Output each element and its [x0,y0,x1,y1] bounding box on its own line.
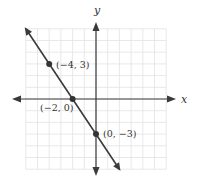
coordinate-plane: x y (−4, 3) (−2, 0) (0, −3) [0,0,197,184]
y-axis-label: y [93,4,101,17]
x-axis-label: x [181,93,188,106]
point-label-neg4-3: (−4, 3) [56,59,90,70]
point-label-0-neg3: (0, −3) [103,128,137,139]
data-point [93,131,99,137]
data-point [46,61,52,67]
y-axis-down-arrow-icon [93,167,100,176]
x-axis-left-arrow-icon [12,96,21,103]
x-axis-right-arrow-icon [167,96,176,103]
x-axis [12,96,176,103]
point-label-neg2-0: (−2, 0) [40,102,74,113]
y-axis-up-arrow-icon [93,22,100,31]
